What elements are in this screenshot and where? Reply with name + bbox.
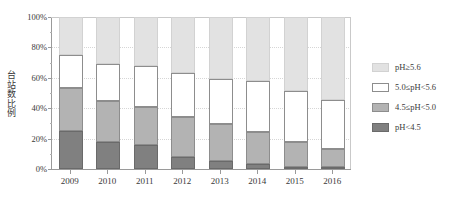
x-axis-tick <box>257 170 258 174</box>
y-axis-tick-label: 20% <box>17 134 47 143</box>
bar-group[interactable] <box>321 17 345 169</box>
bar-stack <box>59 17 83 169</box>
legend-swatch <box>372 63 389 72</box>
legend-item[interactable]: 5.0≤pH<5.6 <box>372 77 460 97</box>
legend-item[interactable]: pH<4.5 <box>372 117 460 137</box>
y-axis-tick <box>48 139 52 140</box>
bar-segment-lt45[interactable] <box>96 142 120 169</box>
x-axis-tick <box>107 170 108 174</box>
x-axis-tick-label: 2014 <box>248 176 266 187</box>
legend-swatch <box>372 83 389 92</box>
bar-segment-p50_56[interactable] <box>171 73 195 117</box>
y-axis-tick-label: 80% <box>17 43 47 52</box>
bar-segment-p50_56[interactable] <box>59 55 83 88</box>
bar-segment-p45_50[interactable] <box>246 132 270 165</box>
y-axis-tick-label: 40% <box>17 104 47 113</box>
bar-stack <box>96 17 120 169</box>
bar-segment-ge56[interactable] <box>209 17 233 79</box>
bar-segment-lt45[interactable] <box>209 161 233 169</box>
bar-segment-ge56[interactable] <box>284 17 308 91</box>
stacked-bar-chart: 台站数比例 0%20%40%60%80%100% 200920102011201… <box>0 0 462 205</box>
plot-area <box>51 17 351 169</box>
y-axis-minor-tick <box>50 32 52 33</box>
y-axis-tick-labels: 0%20%40%60%80%100% <box>17 17 47 169</box>
x-axis-tick <box>70 170 71 174</box>
bar-segment-p45_50[interactable] <box>284 142 308 167</box>
bar-segment-p50_56[interactable] <box>134 66 158 108</box>
x-axis-tick-label: 2016 <box>323 176 341 187</box>
bar-segment-ge56[interactable] <box>246 17 270 81</box>
bar-group[interactable] <box>209 17 233 169</box>
y-axis-tick <box>48 78 52 79</box>
bar-stack <box>134 17 158 169</box>
y-axis-minor-tick <box>50 154 52 155</box>
y-axis-tick-label: 60% <box>17 73 47 82</box>
plot-inner <box>52 17 351 169</box>
x-axis-tick-label: 2015 <box>286 176 304 187</box>
bar-segment-p45_50[interactable] <box>96 101 120 142</box>
bar-segment-lt45[interactable] <box>59 131 83 169</box>
x-axis-tick-label: 2009 <box>61 176 79 187</box>
x-axis-tick-label: 2010 <box>98 176 116 187</box>
x-axis-tick <box>332 170 333 174</box>
y-axis-minor-tick <box>50 93 52 94</box>
x-axis-baseline <box>51 169 351 170</box>
y-axis-title: 台站数比例 <box>3 46 18 141</box>
bar-segment-ge56[interactable] <box>96 17 120 64</box>
bar-stack <box>321 17 345 169</box>
y-axis-tick-label: 100% <box>17 13 47 22</box>
bar-segment-lt45[interactable] <box>321 167 345 169</box>
x-axis-tick-label: 2013 <box>211 176 229 187</box>
axis-right-edge <box>350 17 351 169</box>
legend-item[interactable]: pH≥5.6 <box>372 57 460 77</box>
bar-segment-ge56[interactable] <box>171 17 195 73</box>
chart-legend: pH≥5.65.0≤pH<5.64.5≤pH<5.0pH<4.5 <box>372 57 460 137</box>
bar-segment-lt45[interactable] <box>284 167 308 169</box>
bar-segment-lt45[interactable] <box>246 164 270 169</box>
bar-segment-p50_56[interactable] <box>96 64 120 100</box>
bar-group[interactable] <box>171 17 195 169</box>
bar-segment-p50_56[interactable] <box>209 79 233 125</box>
x-axis-tick-label: 2011 <box>136 176 154 187</box>
y-axis-tick-label: 0% <box>17 165 47 174</box>
bar-stack <box>209 17 233 169</box>
bar-segment-lt45[interactable] <box>171 157 195 169</box>
bar-group[interactable] <box>59 17 83 169</box>
legend-label: 4.5≤pH<5.0 <box>395 102 436 112</box>
x-axis-tick <box>295 170 296 174</box>
bar-stack <box>171 17 195 169</box>
x-axis-tick <box>182 170 183 174</box>
bar-group[interactable] <box>134 17 158 169</box>
y-axis-tick <box>48 108 52 109</box>
legend-label: pH≥5.6 <box>395 62 421 72</box>
bar-segment-p50_56[interactable] <box>284 91 308 141</box>
bar-segment-p45_50[interactable] <box>134 107 158 145</box>
bar-segment-ge56[interactable] <box>321 17 345 100</box>
bar-group[interactable] <box>284 17 308 169</box>
bar-segment-ge56[interactable] <box>59 17 83 55</box>
bar-group[interactable] <box>96 17 120 169</box>
bar-group[interactable] <box>246 17 270 169</box>
bar-segment-p45_50[interactable] <box>321 149 345 166</box>
x-axis-tick <box>145 170 146 174</box>
bar-stack <box>284 17 308 169</box>
legend-label: pH<4.5 <box>395 122 421 132</box>
bar-segment-p45_50[interactable] <box>59 88 83 131</box>
bar-segment-p50_56[interactable] <box>246 81 270 132</box>
bar-segment-p50_56[interactable] <box>321 100 345 149</box>
legend-label: 5.0≤pH<5.6 <box>395 82 436 92</box>
x-axis-tick-label: 2012 <box>173 176 191 187</box>
legend-item[interactable]: 4.5≤pH<5.0 <box>372 97 460 117</box>
bar-segment-lt45[interactable] <box>134 145 158 169</box>
bar-stack <box>246 17 270 169</box>
y-axis-minor-tick <box>50 63 52 64</box>
y-axis-minor-tick <box>50 123 52 124</box>
x-axis-tick <box>220 170 221 174</box>
y-axis-tick <box>48 47 52 48</box>
bar-segment-p45_50[interactable] <box>171 117 195 157</box>
bar-segment-p45_50[interactable] <box>209 124 233 160</box>
legend-swatch <box>372 103 389 112</box>
bar-segment-ge56[interactable] <box>134 17 158 66</box>
legend-swatch <box>372 123 389 132</box>
